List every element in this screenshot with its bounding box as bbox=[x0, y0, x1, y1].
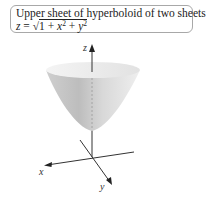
x-axis-label: x bbox=[38, 166, 44, 177]
z-axis-arrow-icon bbox=[89, 44, 95, 52]
surface-rim bbox=[46, 62, 140, 78]
y-axis-label: y bbox=[99, 181, 105, 192]
surface-outer bbox=[46, 70, 140, 131]
y-axis-line bbox=[80, 140, 110, 182]
z-axis-label: z bbox=[82, 42, 87, 53]
axes-lower bbox=[44, 130, 134, 185]
hyperboloid-figure: z x y bbox=[0, 0, 207, 204]
x-axis-arrow-icon bbox=[44, 162, 52, 167]
hyperboloid-surface bbox=[46, 62, 140, 131]
